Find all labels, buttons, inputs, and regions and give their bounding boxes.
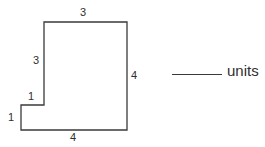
step-polygon-outline: [21, 22, 127, 130]
dimension-label-lower-left: 1: [8, 112, 14, 123]
dimension-label-step-horizontal: 1: [28, 91, 34, 102]
dimension-label-bottom: 4: [70, 132, 76, 143]
dimension-label-top: 3: [80, 7, 86, 18]
dimension-label-upper-left: 3: [33, 55, 39, 66]
answer-blank-line[interactable]: [172, 74, 222, 75]
answer-area: units: [170, 62, 265, 87]
units-label: units: [227, 62, 259, 80]
worksheet-canvas: 3 3 4 4 1 1 units: [0, 0, 265, 147]
dimension-label-right: 4: [131, 70, 137, 81]
